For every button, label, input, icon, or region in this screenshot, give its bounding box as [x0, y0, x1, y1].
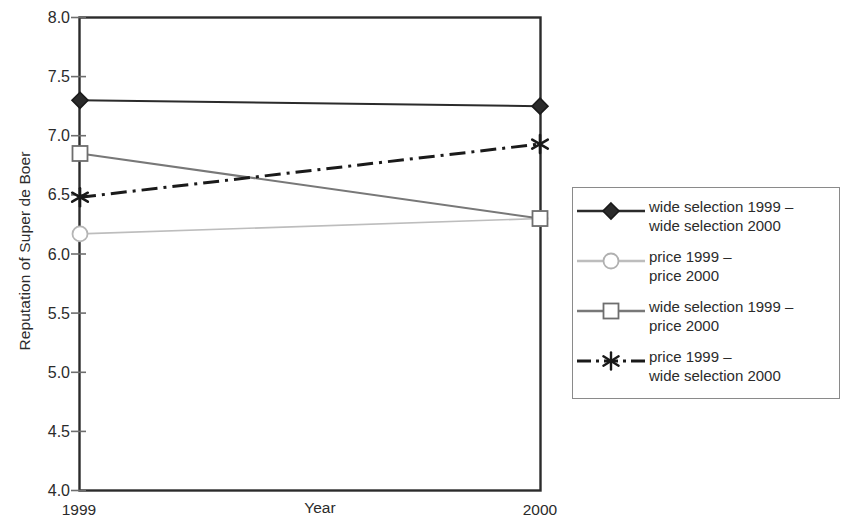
data-point-marker: wide selection 1999 – price 2000: 6.3: [533, 211, 548, 226]
legend-item-label: price 1999 – price 2000: [649, 246, 732, 285]
legend-item-label: price 1999 – wide selection 2000: [649, 346, 781, 385]
square-icon: [573, 296, 649, 326]
asterisk-icon: [573, 346, 649, 376]
series-line: wide selection 1999 – wide selection 200…: [72, 92, 548, 114]
data-point-marker: price 1999 – price 2000: 6.17: [73, 226, 88, 241]
legend-item-price-price[interactable]: price 1999 – price 2000: [573, 246, 841, 292]
series-line: wide selection 1999 – price 2000: 6.85wi…: [73, 146, 548, 226]
plot-frame: [80, 18, 541, 491]
legend-item-wide-selection-price[interactable]: wide selection 1999 – price 2000: [573, 296, 841, 342]
legend-item-price-wide-selection[interactable]: price 1999 – wide selection 2000: [573, 346, 841, 392]
series-line: price 1999 – price 2000: 6.17price 1999 …: [73, 211, 548, 241]
data-point-marker: wide selection 1999 – price 2000: 6.85: [73, 146, 88, 161]
legend-item-wide-selection-wide-selection[interactable]: wide selection 1999 – wide selection 200…: [573, 196, 841, 242]
data-series-group: wide selection 1999 – wide selection 200…: [72, 92, 548, 241]
data-point-marker: wide selection 1999 – wide selection 200…: [532, 98, 548, 114]
data-point-marker: wide selection 1999 – wide selection 200…: [72, 92, 88, 108]
circle-icon: [573, 246, 649, 276]
legend: wide selection 1999 – wide selection 200…: [572, 187, 840, 399]
series-line: price 1999 – wide selection 2000: 6.48pr…: [72, 135, 548, 206]
diamond-icon: [573, 196, 649, 226]
legend-item-label: wide selection 1999 – wide selection 200…: [649, 196, 793, 235]
legend-item-label: wide selection 1999 – price 2000: [649, 296, 793, 335]
